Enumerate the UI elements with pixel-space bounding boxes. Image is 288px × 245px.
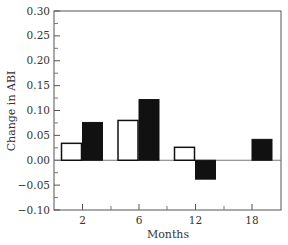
x-tick-label: 2 — [79, 214, 86, 226]
y-tick-label: 0.15 — [27, 79, 50, 91]
bars — [62, 100, 273, 180]
y-axis-title: Change in ABI — [5, 71, 18, 152]
y-tick-label: 0.20 — [27, 54, 50, 66]
y-tick-label: −0.10 — [18, 204, 50, 216]
x-tick-label: 12 — [189, 214, 202, 226]
bar-filled — [196, 160, 216, 179]
bar-open — [175, 147, 195, 160]
bar-filled — [252, 139, 272, 160]
x-axis: 261218 — [79, 204, 259, 226]
y-tick-label: −0.05 — [18, 179, 50, 191]
x-axis-title: Months — [147, 228, 189, 241]
x-tick-label: 18 — [245, 214, 258, 226]
y-tick-label: 0.05 — [27, 129, 50, 141]
x-tick-label: 6 — [136, 214, 143, 226]
bar-open — [118, 120, 138, 160]
y-tick-label: 0.00 — [27, 154, 50, 166]
bar-chart: −0.10−0.050.000.050.100.150.200.250.30 2… — [0, 0, 288, 245]
y-tick-label: 0.30 — [27, 5, 50, 17]
plot-frame — [54, 11, 281, 210]
bar-filled — [139, 100, 159, 161]
y-tick-label: 0.10 — [27, 104, 50, 116]
bar-filled — [83, 122, 103, 160]
bar-open — [62, 143, 82, 160]
y-tick-label: 0.25 — [27, 29, 50, 41]
